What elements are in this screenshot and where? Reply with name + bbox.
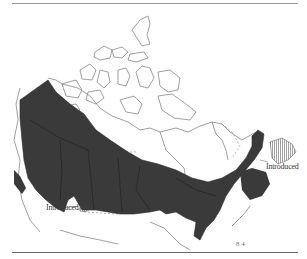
introduced-label-west: Introduced xyxy=(46,204,79,212)
canada-range-map xyxy=(0,0,307,259)
corner-mark: 8 4 xyxy=(236,240,245,248)
bottom-rule xyxy=(12,252,298,253)
vancouver-island-range xyxy=(14,170,26,194)
introduced-range-west xyxy=(79,207,89,212)
arctic-islands xyxy=(62,16,196,120)
introduced-label-east: Introduced xyxy=(266,163,299,171)
introduced-range-newfoundland xyxy=(270,138,296,164)
maritimes-range xyxy=(240,168,270,200)
